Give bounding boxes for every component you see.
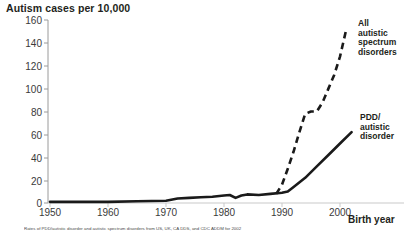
plot-area (0, 0, 414, 233)
label-all-line-4: disorders (358, 48, 397, 58)
series-pdd-autistic-disorder (50, 132, 352, 202)
series-label-pdd-autistic-disorder: PDD/ autistic disorder (360, 113, 394, 142)
source-footnote: Rates of PDD/autistic disorder and autis… (24, 226, 324, 231)
autism-rates-chart: Autism cases per 10,000 160 140 120 100 … (0, 0, 414, 233)
series-all-autistic-spectrum-disorders (276, 31, 346, 193)
label-pdd-line-3: disorder (360, 132, 394, 142)
series-label-all-autistic-spectrum-disorders: All autistic spectrum disorders (358, 19, 397, 57)
